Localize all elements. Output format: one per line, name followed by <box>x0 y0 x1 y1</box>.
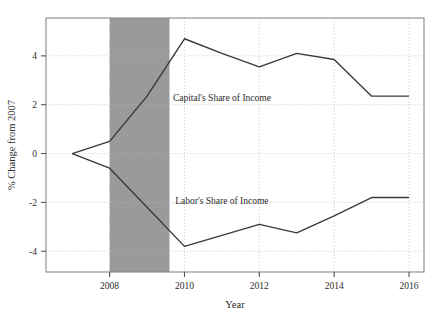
x-tick-label: 2010 <box>175 281 194 291</box>
y-axis-ticks: 420-2-4 <box>29 51 46 256</box>
x-tick-label: 2008 <box>100 281 119 291</box>
series-annotation-label: Capital's Share of Income <box>173 93 271 103</box>
chart-container: 420-2-4 20082010201220142016 Capital's S… <box>0 0 435 317</box>
y-tick-label: -4 <box>29 247 37 257</box>
x-tick-label: 2014 <box>325 281 344 291</box>
y-axis-title: % Change from 2007 <box>6 100 17 190</box>
y-tick-label: 0 <box>32 149 37 159</box>
x-tick-label: 2012 <box>250 281 269 291</box>
y-tick-label: -2 <box>29 198 37 208</box>
x-axis-ticks: 20082010201220142016 <box>100 272 419 291</box>
line-chart: 420-2-4 20082010201220142016 Capital's S… <box>0 0 435 317</box>
y-tick-label: 4 <box>32 51 37 61</box>
series-annotation-label: Labor's Share of Income <box>175 196 268 206</box>
x-tick-label: 2016 <box>400 281 419 291</box>
y-tick-label: 2 <box>32 100 37 110</box>
x-axis-title: Year <box>225 299 245 310</box>
